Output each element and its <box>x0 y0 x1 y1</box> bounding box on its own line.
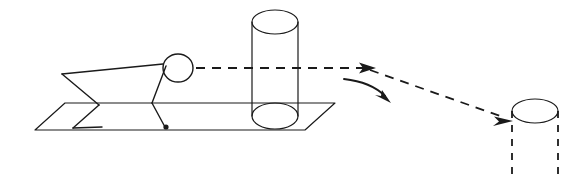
stick-figure-foot <box>73 127 102 128</box>
source-cylinder-top <box>252 10 298 34</box>
trajectory-arrow-2-line <box>370 70 503 117</box>
stick-figure-leg-upper <box>62 74 99 105</box>
target-cylinder <box>512 99 558 180</box>
trajectory-arrow-2 <box>370 70 513 126</box>
trajectory-arrow-1 <box>196 63 376 74</box>
source-cylinder-bottom <box>252 103 298 129</box>
stick-figure-head <box>163 54 193 82</box>
placement-curve-arrow-line <box>344 79 385 96</box>
target-cylinder-top <box>512 99 558 123</box>
placement-curve-arrow <box>344 79 391 103</box>
stick-figure-torso <box>62 64 163 74</box>
placement-curve-arrow-head <box>375 90 391 103</box>
diagram-canvas: Stick figure tossing an object from a so… <box>0 0 580 192</box>
trajectory-arrow-2-head <box>493 117 513 127</box>
stick-figure-arm <box>152 103 165 127</box>
diagram-svg: Stick figure tossing an object from a so… <box>0 0 580 192</box>
source-cylinder <box>252 10 298 129</box>
stick-figure-leg-lower <box>73 105 99 128</box>
stick-figure <box>62 54 193 130</box>
stick-figure-hand-dot <box>163 124 168 129</box>
